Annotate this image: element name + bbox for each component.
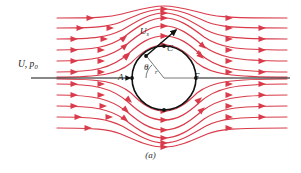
marker-point-a: [130, 76, 134, 80]
freestream-label: U, p0: [18, 60, 38, 70]
surface-velocity-label: Us: [140, 27, 149, 37]
marker-point-bottom: [162, 108, 166, 112]
streamline-diagram: [0, 0, 301, 173]
marker-point-c: [162, 44, 166, 48]
point-a-label: A: [118, 73, 124, 82]
potential-flow-figure: U, p0 Us A C F θ r (a): [0, 0, 301, 173]
point-c-label: C: [167, 44, 173, 53]
point-f-label: F: [194, 72, 200, 81]
theta-label: θ: [144, 63, 148, 72]
radius-label: r: [155, 69, 158, 76]
figure-caption: (a): [0, 150, 301, 160]
